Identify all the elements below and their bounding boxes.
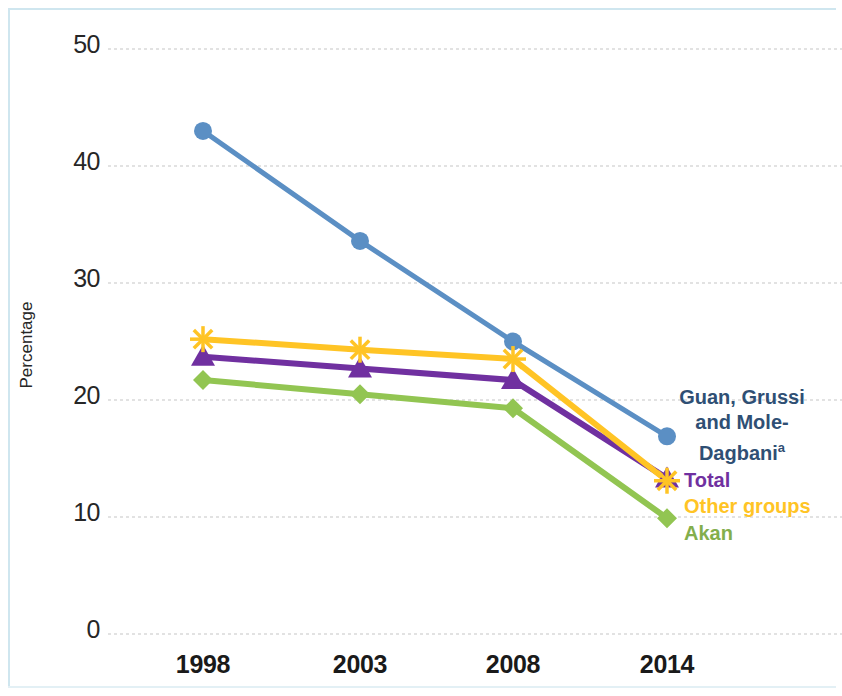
data-point-diamond bbox=[193, 370, 213, 390]
legend-guan-line2: and Mole- bbox=[695, 411, 788, 433]
legend-guan-line1: Guan, Grussi bbox=[679, 386, 805, 408]
data-point-star bbox=[500, 346, 526, 372]
data-point-star bbox=[654, 468, 680, 494]
y-axis-title: Percentage bbox=[17, 285, 37, 405]
legend-item-akan: Akan bbox=[684, 521, 733, 546]
ytick-label-50: 50 bbox=[30, 30, 100, 59]
ytick-label-20: 20 bbox=[30, 381, 100, 410]
ytick-label-40: 40 bbox=[30, 147, 100, 176]
xtick-label-2003: 2003 bbox=[300, 650, 420, 679]
series-line-1 bbox=[203, 357, 667, 479]
data-point-circle bbox=[351, 232, 369, 250]
data-point-diamond bbox=[350, 384, 370, 404]
ytick-label-10: 10 bbox=[30, 498, 100, 527]
xtick-label-2014: 2014 bbox=[607, 650, 727, 679]
xtick-label-2008: 2008 bbox=[453, 650, 573, 679]
data-point-circle bbox=[194, 122, 212, 140]
data-point-star bbox=[347, 337, 373, 363]
xtick-label-1998: 1998 bbox=[143, 650, 263, 679]
ytick-label-0: 0 bbox=[30, 615, 100, 644]
legend-item-other-groups: Other groups bbox=[684, 494, 811, 519]
legend-item-total: Total bbox=[684, 468, 730, 493]
line-chart-plot bbox=[0, 0, 842, 696]
legend-guan-footnote-marker: a bbox=[778, 440, 785, 455]
legend-item-guan-grussi-mole-dagbani: Guan, Grussi and Mole- Dagbania bbox=[672, 385, 812, 466]
legend-guan-line3: Dagbani bbox=[699, 442, 778, 464]
chart-figure: 50 40 30 20 10 0 Percentage 1998 2003 20… bbox=[0, 0, 842, 696]
series-markers bbox=[190, 122, 680, 528]
series-line-3 bbox=[203, 380, 667, 518]
data-point-star bbox=[190, 326, 216, 352]
series-lines bbox=[203, 131, 667, 518]
ytick-label-30: 30 bbox=[30, 264, 100, 293]
